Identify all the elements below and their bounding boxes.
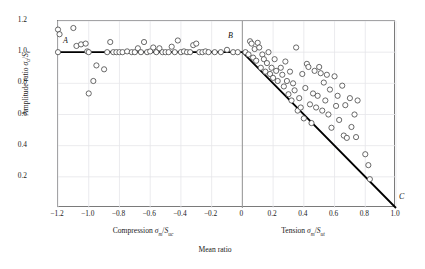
x-tick-label: −0.4 [163, 210, 197, 218]
y-axis-label: Amplitude ratio σa/Se [21, 8, 32, 158]
x-tick-label: 0.6 [317, 210, 351, 218]
x-tick-label: 0.8 [347, 210, 381, 218]
x-tick-label: −1.2 [40, 210, 74, 218]
x-tick-label: −0.6 [132, 210, 166, 218]
x-tick-label: 0.2 [255, 210, 289, 218]
point-label-b: B [228, 31, 233, 40]
x-tick-label: −0.8 [101, 210, 135, 218]
x-axis-label-tension: Tension σm/Sut [238, 226, 368, 237]
x-axis-label-mean: Mean ratio [145, 245, 285, 254]
x-tick-label: −0.2 [194, 210, 228, 218]
point-label-a: A [63, 36, 68, 45]
x-tick-label: 1.0 [378, 210, 412, 218]
goodman-diagram-figure: 0.20.40.60.81.01.2 −1.2−1.0−0.8−0.6−0.4−… [0, 0, 425, 269]
x-tick-label: 0.4 [286, 210, 320, 218]
scatter-points [58, 21, 394, 206]
y-tick-label: 0.2 [0, 172, 27, 180]
x-axis-label-compression: Compression σm/Suc [73, 226, 213, 237]
point-label-c: C [399, 192, 404, 201]
x-tick-label: 0 [224, 210, 258, 218]
plot-area [57, 20, 395, 207]
x-tick-label: −1.0 [71, 210, 105, 218]
